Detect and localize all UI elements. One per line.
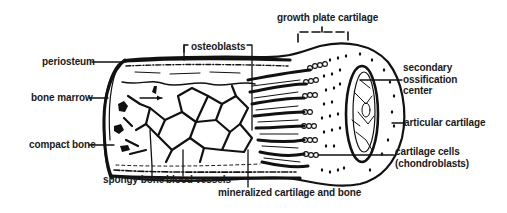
mineralized-columns <box>248 70 310 167</box>
bone-diagram <box>0 0 507 213</box>
growth-plate-bracket <box>298 27 348 42</box>
bone-marrow-arrowhead <box>157 96 162 101</box>
label-spongy-bone: spongy bone <box>103 174 164 186</box>
label-osteoblasts: osteoblasts <box>191 41 245 53</box>
label-cartilage-cells: cartilage cells (chondroblasts) <box>395 146 469 169</box>
label-mineralized-cartilage-and-bone: mineralized cartilage and bone <box>218 187 361 199</box>
label-articular-cartilage: articular cartilage <box>404 117 485 129</box>
label-periosteum: periosteum <box>42 56 95 68</box>
label-secondary-ossification-center: secondary ossification center <box>403 62 457 97</box>
mineralized-columns-thin <box>252 80 300 162</box>
label-compact-bone: compact bone <box>29 139 96 151</box>
label-growth-plate-cartilage: growth plate cartilage <box>277 12 378 24</box>
leader-lines <box>89 62 403 187</box>
label-blood-vessels: blood vessels <box>166 174 231 186</box>
label-bone-marrow: bone marrow <box>31 92 93 104</box>
